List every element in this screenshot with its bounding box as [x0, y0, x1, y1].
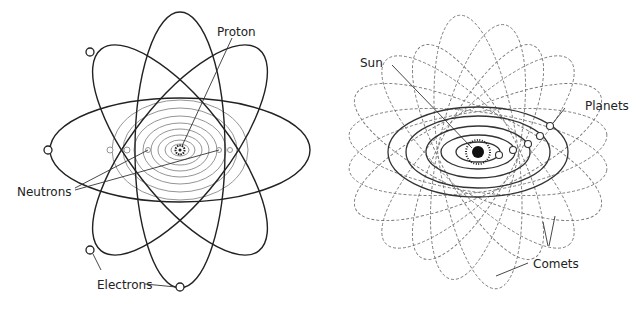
sun	[466, 140, 490, 164]
proton-nucleus	[176, 146, 185, 155]
label-neutrons: Neutrons	[17, 186, 72, 198]
solar-system-diagram	[338, 10, 618, 294]
atom-leader-lines	[75, 38, 232, 287]
label-comets: Comets	[533, 258, 579, 270]
atom-diagram	[44, 12, 310, 291]
neutrons	[107, 147, 233, 153]
label-sun: Sun	[360, 57, 383, 69]
label-planets: Planets	[585, 100, 629, 112]
label-proton: Proton	[217, 26, 256, 38]
label-electrons: Electrons	[97, 279, 152, 291]
